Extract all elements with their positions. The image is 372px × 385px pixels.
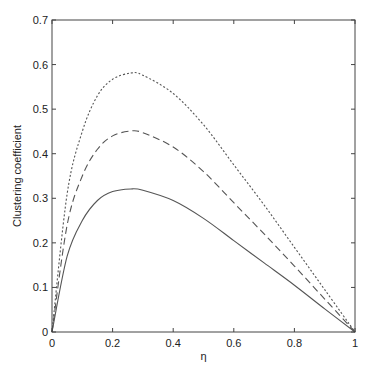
series-line-dashed [52, 131, 355, 332]
axis-ticks: 00.20.40.60.8100.10.20.30.40.50.60.7 [33, 14, 358, 349]
y-axis-label: Clustering coefficient [11, 125, 23, 227]
x-tick-label: 0.4 [166, 337, 181, 349]
x-tick-label: 0.6 [226, 337, 241, 349]
x-tick-label: 0.8 [287, 337, 302, 349]
x-tick-label: 1 [352, 337, 358, 349]
x-tick-label: 0.2 [105, 337, 120, 349]
y-tick-label: 0.6 [33, 59, 48, 71]
series-line-solid [52, 189, 355, 332]
y-tick-label: 0.3 [33, 192, 48, 204]
y-tick-label: 0.5 [33, 103, 48, 115]
plot-frame [52, 20, 355, 332]
y-tick-label: 0.7 [33, 14, 48, 26]
plot-lines [52, 73, 355, 332]
x-axis-label: η [200, 350, 206, 362]
series-line-dotted [52, 73, 355, 332]
x-tick-label: 0 [49, 337, 55, 349]
y-tick-label: 0.2 [33, 237, 48, 249]
y-tick-label: 0.4 [33, 148, 48, 160]
y-tick-label: 0 [42, 326, 48, 338]
clustering-chart: 00.20.40.60.8100.10.20.30.40.50.60.7 η C… [0, 0, 372, 385]
y-tick-label: 0.1 [33, 281, 48, 293]
